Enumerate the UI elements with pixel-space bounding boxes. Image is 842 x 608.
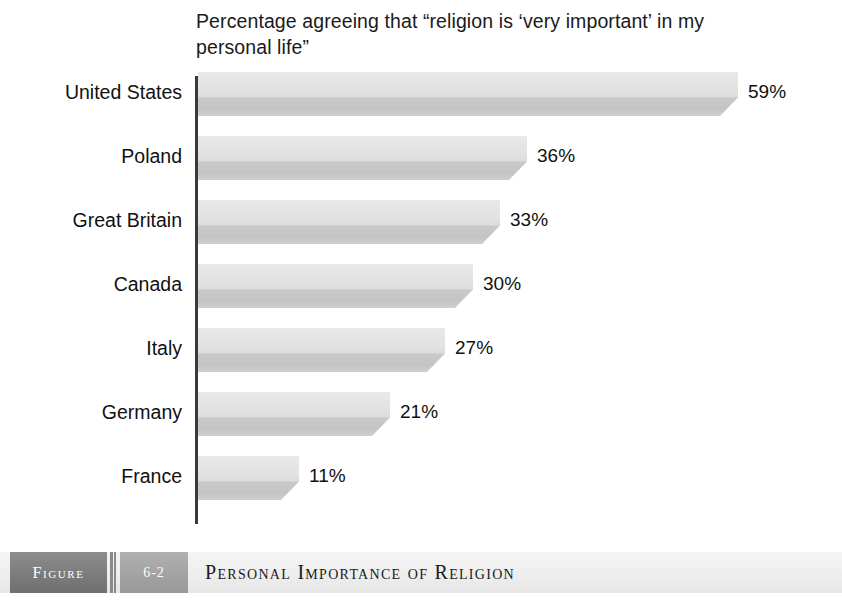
category-label: Great Britain (0, 206, 182, 234)
bar-italy (198, 328, 445, 372)
bar-row: France 11% (0, 454, 842, 518)
category-label: Italy (0, 334, 182, 362)
bar-value-label: 36% (537, 143, 575, 169)
category-label: Poland (0, 142, 182, 170)
bar-row: Canada 30% (0, 262, 842, 326)
bar-great-britain (198, 200, 500, 244)
bar-value-label: 11% (309, 463, 346, 489)
bar-value-label: 33% (510, 207, 548, 233)
bar-canada (198, 264, 473, 308)
bar-row: Poland 36% (0, 134, 842, 198)
caption-divider (110, 552, 113, 593)
bar-value-label: 59% (748, 79, 786, 105)
bar-united-states (198, 72, 738, 116)
bar-value-label: 21% (400, 399, 438, 425)
bar-row: United States 59% (0, 70, 842, 134)
figure-number-box: 6-2 (120, 552, 188, 593)
chart-plot-area: United States 59% Poland 36% Great Brita… (0, 70, 842, 530)
figure-word-label: Figure (10, 552, 107, 593)
bar-poland (198, 136, 527, 180)
bar-row: Great Britain 33% (0, 198, 842, 262)
bar-value-label: 30% (483, 271, 521, 297)
caption-divider-second (114, 552, 116, 593)
figure-title: Personal Importance of Religion (205, 552, 515, 593)
category-label: Germany (0, 398, 182, 426)
figure-word-box: Figure (10, 552, 107, 593)
bar-row: Germany 21% (0, 390, 842, 454)
category-label: Canada (0, 270, 182, 298)
bar-row: Italy 27% (0, 326, 842, 390)
bar-france (198, 456, 299, 500)
chart-title: Percentage agreeing that “religion is ‘v… (196, 8, 756, 60)
category-label: France (0, 462, 182, 490)
category-label: United States (0, 78, 182, 106)
figure-caption-bar: Figure 6-2 Personal Importance of Religi… (0, 552, 842, 593)
bar-germany (198, 392, 390, 436)
bar-value-label: 27% (455, 335, 493, 361)
figure-number-label: 6-2 (120, 552, 188, 593)
